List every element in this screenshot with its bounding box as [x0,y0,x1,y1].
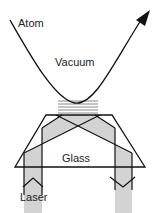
atom-mirror-diagram: Atom Vacuum Glass Laser [0,0,156,213]
atom-label: Atom [18,18,44,29]
vacuum-label: Vacuum [55,57,95,68]
glass-label: Glass [62,153,90,164]
laser-label: Laser [20,192,48,203]
diagram-graphic [0,0,156,213]
